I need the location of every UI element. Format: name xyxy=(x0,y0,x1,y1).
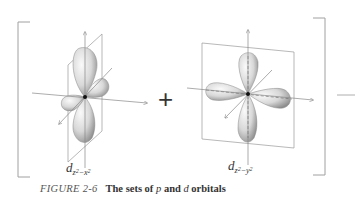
right-bracket xyxy=(313,18,325,175)
label-sub: z2−x2 xyxy=(73,168,91,177)
nucleus xyxy=(83,95,87,99)
nucleus xyxy=(246,92,250,96)
orbital-figure: + xyxy=(0,0,355,202)
orbital-dz2-y2-diagram xyxy=(187,30,313,165)
figure-number: FIGURE 2-6 xyxy=(40,183,98,194)
lobe-lower xyxy=(238,94,257,142)
orbital-label-dz2-x2: dz2−x2 xyxy=(66,160,91,176)
plus-operator: + xyxy=(158,84,173,114)
lobe-right xyxy=(248,88,290,108)
label-sub: z2−y2 xyxy=(235,166,253,175)
lobe-upper xyxy=(239,53,258,94)
caption-text: The sets of p and d orbitals xyxy=(106,183,226,194)
figure-caption: FIGURE 2-6The sets of p and d orbitals xyxy=(40,183,226,194)
orbital-label-dz2-y2: dz2−y2 xyxy=(228,158,253,174)
orbital-dz2-x2-diagram xyxy=(32,32,147,168)
left-bracket xyxy=(18,22,30,177)
